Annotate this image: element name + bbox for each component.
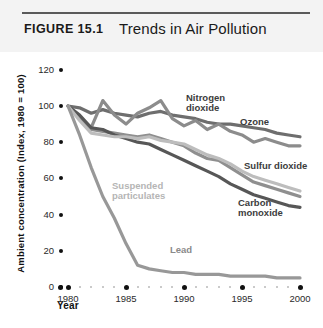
series-label-nitrogen-dioxide: Nitrogen dioxide [186, 93, 225, 113]
series-label-carbon-monoxide: Carbon monoxide [238, 198, 283, 218]
series-label-sulfur-dioxide: Sulfur dioxide [244, 161, 307, 171]
series-label-ozone: Ozone [240, 117, 269, 127]
figure-container: FIGURE 15.1 Trends in Air Pollution Ambi… [0, 0, 323, 328]
series-label-suspended-particulates: Suspended particulates [112, 181, 165, 201]
series-label-lead: Lead [170, 245, 192, 255]
